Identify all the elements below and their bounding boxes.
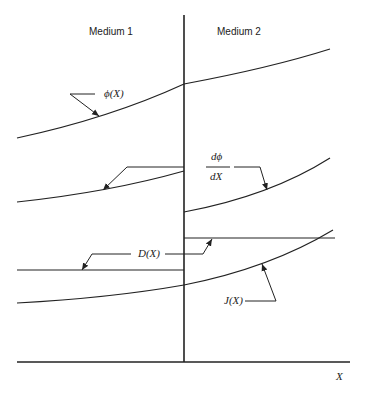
medium-1-label: Medium 1 [89, 26, 133, 37]
dphi-leader-right [234, 167, 267, 190]
D-leader-left [82, 254, 131, 270]
medium-2-label: Medium 2 [217, 26, 261, 37]
phi-curve [17, 84, 184, 138]
dphi-leader-left [103, 167, 184, 190]
J-curve [17, 230, 333, 303]
dphi-numerator: dϕ [211, 150, 222, 162]
dphi-curve-right [184, 158, 330, 212]
phi-leader [70, 94, 99, 116]
x-axis-label: X [336, 370, 343, 382]
phi-label: ϕ(X) [104, 87, 124, 99]
D-leader-right [165, 239, 212, 254]
phi-curve-right [184, 49, 330, 84]
J-label: J(X) [224, 294, 243, 306]
diagram-canvas [0, 0, 367, 397]
dphi-curve-left [17, 171, 184, 202]
D-label: D(X) [138, 247, 160, 259]
dphi-denominator: dX [210, 170, 222, 182]
J-leader [245, 264, 276, 301]
